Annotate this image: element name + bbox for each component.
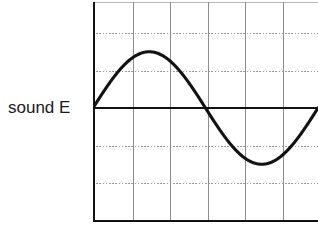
waveform-svg [93,2,318,222]
sound-e-label: sound E [8,96,88,120]
waveform-plot-area [93,2,318,222]
sound-waveform-figure: sound E [0,0,318,237]
